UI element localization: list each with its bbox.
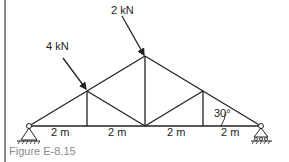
load-4kn-label: 4 kN: [46, 40, 69, 52]
load-4kn-arrow: [63, 58, 86, 89]
span-label-1: 2 m: [51, 126, 69, 138]
load-2kn-label: 2 kN: [111, 4, 134, 16]
span-label-3: 2 m: [167, 126, 185, 138]
angle-label: 30°: [214, 107, 231, 119]
figure-caption: Figure E-8.15: [9, 145, 76, 157]
truss-diagram: 4 kN 2 kN 30° 2 m 2 m 2 m 2 m: [0, 0, 289, 162]
span-label-4: 2 m: [221, 126, 239, 138]
span-label-2: 2 m: [108, 126, 126, 138]
load-2kn-arrow: [122, 16, 144, 55]
